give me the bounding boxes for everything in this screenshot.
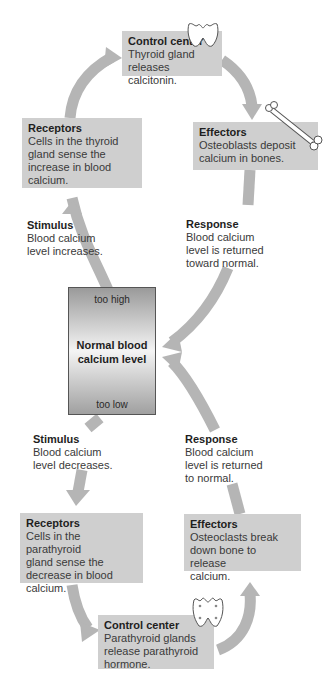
normal-calcium-level-box: too high Normal blood calcium level too … (68, 287, 156, 415)
arrow-stimulus-to-receptors-bottom (78, 470, 82, 492)
stimulus-title: Stimulus (27, 219, 103, 232)
arrowhead (104, 47, 122, 68)
stimulus-decrease-label: Stimulus Blood calcium level decreases. (33, 433, 113, 472)
control-center-text: Parathyroid glands release parathyroid h… (104, 632, 208, 671)
stimulus-text: Blood calcium level decreases. (33, 446, 113, 472)
response-to-normal-label: Response Blood calcium level is returned… (185, 433, 263, 485)
effectors-osteoclasts-box: Effectors Osteoclasts break down bone to… (184, 514, 301, 571)
effectors-title: Effectors (190, 518, 295, 531)
response-title: Response (186, 218, 264, 231)
arrow-effectors-to-response-top (248, 170, 250, 205)
stimulus-increase-label: Stimulus Blood calcium level increases. (27, 219, 103, 258)
receptors-text: Cells in the parathyroid gland sense the… (26, 530, 137, 595)
receptors-title: Receptors (28, 122, 136, 135)
arrow-control-to-effectors-top (222, 60, 252, 106)
arrow-normal-to-stimulus-bottom (88, 418, 100, 428)
effectors-text: Osteoclasts break down bone to release c… (190, 531, 295, 583)
too-low-label: too low (69, 399, 155, 410)
arrowhead (240, 582, 260, 596)
arrow-effectors-to-response-bottom (232, 484, 240, 514)
thyroid-gland-icon (185, 20, 221, 50)
receptors-thyroid-box: Receptors Cells in the thyroid gland sen… (22, 118, 142, 188)
stimulus-text: Blood calcium level increases. (27, 232, 103, 258)
arrow-response-to-normal-top (172, 268, 228, 342)
too-high-label: too high (69, 294, 155, 305)
arrowhead (66, 490, 90, 506)
parathyroid-gland-icon (190, 594, 226, 630)
receptors-text: Cells in the thyroid gland sense the inc… (28, 135, 136, 187)
bone-icon (262, 100, 324, 152)
receptors-title: Receptors (26, 517, 137, 530)
stimulus-title: Stimulus (33, 433, 113, 446)
arrow-response-to-normal-bottom (172, 362, 215, 430)
response-title: Response (185, 433, 263, 446)
receptors-parathyroid-box: Receptors Cells in the parathyroid gland… (20, 513, 143, 583)
normal-level-label: Normal blood calcium level (69, 338, 155, 366)
response-toward-normal-label: Response Blood calcium level is returned… (186, 218, 264, 270)
response-text: Blood calcium level is returned to norma… (185, 446, 263, 485)
response-text: Blood calcium level is returned toward n… (186, 231, 264, 270)
arrowhead (242, 104, 262, 120)
control-center-text: Thyroid gland releases calcitonin. (128, 48, 216, 87)
